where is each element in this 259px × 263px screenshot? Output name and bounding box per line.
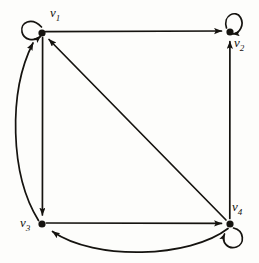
vertex-dot-v3[interactable] xyxy=(38,220,45,227)
self-loop-v1 xyxy=(22,21,42,39)
vertex-dot-v1[interactable] xyxy=(38,29,45,36)
edge-v4-v1 xyxy=(49,40,226,221)
vertex-label-v4: v4 xyxy=(232,200,242,217)
self-loop-v4 xyxy=(224,228,243,248)
vertex-label-v1-sub: 1 xyxy=(56,13,61,23)
vertex-label-v2-sub: 2 xyxy=(240,43,245,53)
vertex-dot-v2[interactable] xyxy=(226,28,233,35)
vertex-label-v4-sub: 4 xyxy=(238,207,243,217)
graph-canvas xyxy=(0,0,259,263)
edge-v4-v3 xyxy=(53,229,229,253)
vertex-label-v2: v2 xyxy=(234,36,244,53)
vertex-label-v3-sub: 3 xyxy=(26,223,31,233)
vertex-dot-v4[interactable] xyxy=(226,220,233,227)
edge-v3-v1 xyxy=(16,43,39,221)
vertex-label-v3: v3 xyxy=(20,216,30,233)
edge-v1-v2 xyxy=(46,31,222,32)
vertex-label-v1: v1 xyxy=(50,6,60,23)
directed-graph-figure: v1 v2 v3 v4 xyxy=(0,0,259,263)
